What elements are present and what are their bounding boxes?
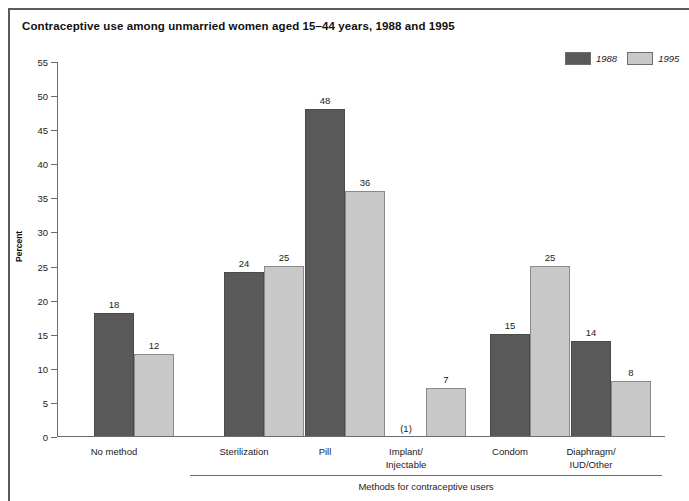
y-tick-label: 30 <box>37 227 48 238</box>
frame-left-rule <box>8 8 10 501</box>
x-label-no-method: No method <box>66 446 162 459</box>
bar-diaphragm-iud-other-1995[interactable]: 8 <box>611 381 651 436</box>
bar-no-method-1995[interactable]: 12 <box>134 354 174 436</box>
x-axis-line <box>57 436 665 437</box>
bar-value-label: 36 <box>360 177 371 188</box>
y-tick-label: 5 <box>43 397 48 408</box>
bar-sterilization-1995[interactable]: 25 <box>264 266 304 436</box>
bar-diaphragm-iud-other-1988[interactable]: 14 <box>571 341 611 436</box>
y-tick-mark <box>51 232 57 233</box>
bar-note-implant-injectable-1988: (1) <box>386 423 426 434</box>
y-tick-label: 55 <box>37 57 48 68</box>
group-bracket-caption: Methods for contraceptive users <box>190 481 662 492</box>
chart-title: Contraceptive use among unmarried women … <box>22 20 455 32</box>
bar-no-method-1988[interactable]: 18 <box>94 313 134 436</box>
bar-implant-injectable-1995[interactable]: 7 <box>426 388 466 436</box>
bar-value-label: 25 <box>545 252 556 263</box>
y-tick-label: 45 <box>37 125 48 136</box>
x-label-diaphragm-iud-other: Diaphragm/ IUD/Other <box>543 446 639 471</box>
bar-value-label: 18 <box>109 299 120 310</box>
y-tick-mark <box>51 437 57 438</box>
y-tick-label: 20 <box>37 295 48 306</box>
bar-value-label: 7 <box>443 374 448 385</box>
y-tick-label: 10 <box>37 363 48 374</box>
bar-condom-1995[interactable]: 25 <box>530 266 570 436</box>
y-tick-mark <box>51 96 57 97</box>
y-tick-mark <box>51 62 57 63</box>
bar-value-label: 48 <box>320 95 331 106</box>
y-tick-mark <box>51 198 57 199</box>
figure-container: Contraceptive use among unmarried women … <box>0 0 689 501</box>
bar-condom-1988[interactable]: 15 <box>490 334 530 436</box>
y-tick-mark <box>51 130 57 131</box>
group-bracket-rule <box>190 475 662 476</box>
bar-pill-1995[interactable]: 36 <box>345 191 385 436</box>
bar-value-label: 14 <box>586 327 597 338</box>
bar-sterilization-1988[interactable]: 24 <box>224 272 264 436</box>
y-tick-mark <box>51 403 57 404</box>
plot-area: 0510152025303540455055 181224254836(1)71… <box>57 62 665 437</box>
y-tick-label: 40 <box>37 159 48 170</box>
y-tick-mark <box>51 267 57 268</box>
x-label-implant-injectable: Implant/ Injectable <box>358 446 454 471</box>
y-tick-label: 35 <box>37 193 48 204</box>
y-tick-mark <box>51 369 57 370</box>
y-axis-title: Percent <box>14 231 24 262</box>
bar-value-label: 12 <box>149 340 160 351</box>
y-tick-label: 50 <box>37 91 48 102</box>
y-tick-mark <box>51 335 57 336</box>
y-axis-line <box>57 62 58 437</box>
bar-value-label: 15 <box>505 320 516 331</box>
bar-value-label: 25 <box>279 252 290 263</box>
y-tick-label: 25 <box>37 261 48 272</box>
bar-pill-1988[interactable]: 48 <box>305 109 345 436</box>
y-tick-label: 0 <box>43 432 48 443</box>
y-tick-label: 15 <box>37 329 48 340</box>
bar-value-label: 8 <box>628 367 633 378</box>
y-tick-mark <box>51 164 57 165</box>
bar-value-label: 24 <box>239 258 250 269</box>
frame-top-rule <box>8 8 689 10</box>
y-tick-mark <box>51 301 57 302</box>
